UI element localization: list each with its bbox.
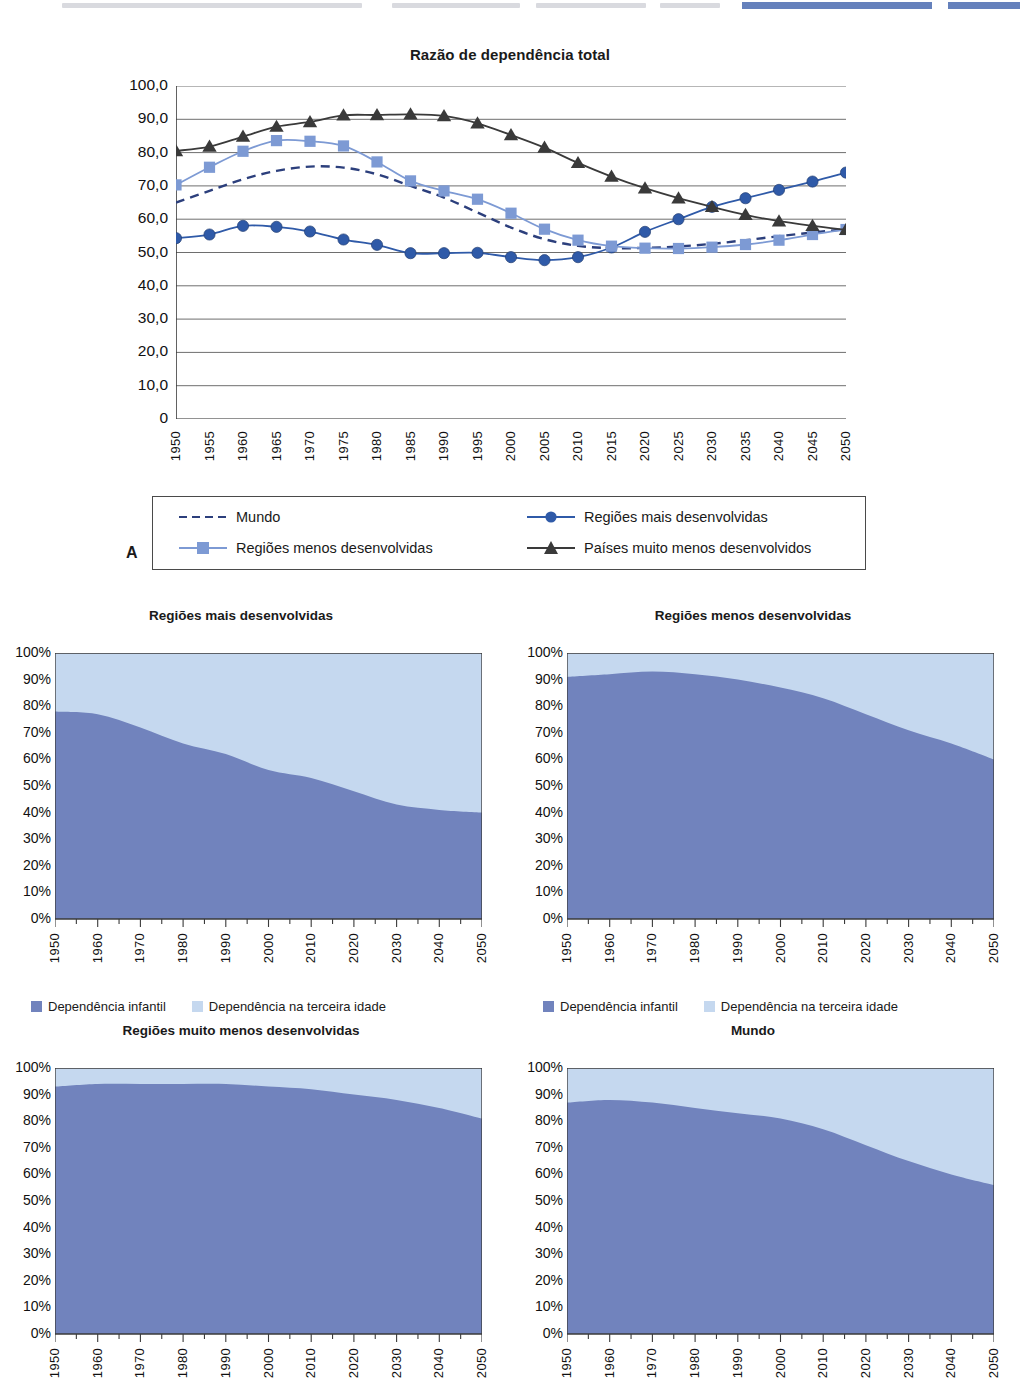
legend-label: Regiões menos desenvolvidas bbox=[236, 540, 433, 556]
area-y-tick: 0% bbox=[513, 1325, 563, 1341]
area-y-tick: 20% bbox=[1, 857, 51, 873]
area-y-tick: 70% bbox=[513, 724, 563, 740]
area-y-tick: 20% bbox=[1, 1272, 51, 1288]
area-x-tick: 2010 bbox=[303, 1348, 318, 1378]
legend-label-dependencia-infantil: Dependência infantil bbox=[560, 999, 678, 1014]
legend-swatch-dependencia-infantil bbox=[31, 1001, 42, 1012]
square-marker-icon bbox=[177, 541, 229, 555]
legend-swatch-dependencia-terceira-idade bbox=[192, 1001, 203, 1012]
legend-label: Regiões mais desenvolvidas bbox=[584, 509, 768, 525]
area-y-tick: 80% bbox=[513, 1112, 563, 1128]
main-x-tick: 2030 bbox=[704, 431, 719, 461]
area-y-tick: 80% bbox=[513, 697, 563, 713]
main-x-tick: 2050 bbox=[838, 431, 853, 461]
area-y-tick: 50% bbox=[1, 777, 51, 793]
area-x-tick: 2040 bbox=[431, 933, 446, 963]
main-y-tick: 0 bbox=[106, 409, 168, 427]
area-x-tick: 2050 bbox=[474, 1348, 489, 1378]
area-y-tick: 90% bbox=[1, 1086, 51, 1102]
area-y-tick: 100% bbox=[1, 1059, 51, 1075]
main-chart-title: Razão de dependência total bbox=[0, 46, 1020, 63]
area-x-tick: 2050 bbox=[474, 933, 489, 963]
main-x-tick: 2035 bbox=[738, 431, 753, 461]
legend-item-regioes-mais-desenvolvidas[interactable]: Regiões mais desenvolvidas bbox=[525, 502, 768, 532]
area-x-tick: 1970 bbox=[132, 1348, 147, 1378]
area-x-tick: 2020 bbox=[346, 1348, 361, 1378]
legend-label-dependencia-terceira-idade: Dependência na terceira idade bbox=[721, 999, 898, 1014]
area-y-tick: 40% bbox=[513, 804, 563, 820]
area-y-tick: 50% bbox=[1, 1192, 51, 1208]
area-x-tick: 2010 bbox=[303, 933, 318, 963]
area-x-tick: 1980 bbox=[687, 933, 702, 963]
panel-label-a: A bbox=[126, 544, 138, 562]
area-x-tick: 2050 bbox=[986, 1348, 1001, 1378]
dashed-line-icon bbox=[177, 510, 229, 524]
main-x-tick: 2020 bbox=[637, 431, 652, 461]
area-x-tick: 2000 bbox=[261, 1348, 276, 1378]
area-y-tick: 10% bbox=[1, 883, 51, 899]
area-chart-title: Regiões muito menos desenvolvidas bbox=[0, 1023, 482, 1038]
main-y-tick: 70,0 bbox=[106, 176, 168, 194]
area-x-tick: 1990 bbox=[218, 933, 233, 963]
area-y-tick: 10% bbox=[1, 1298, 51, 1314]
triangle-marker-icon bbox=[525, 541, 577, 555]
area-x-tick: 2040 bbox=[943, 1348, 958, 1378]
area-x-tick: 2000 bbox=[261, 933, 276, 963]
area-x-tick: 1970 bbox=[132, 933, 147, 963]
main-x-tick: 1970 bbox=[302, 431, 317, 461]
main-x-tick: 2025 bbox=[671, 431, 686, 461]
main-x-tick: 1955 bbox=[202, 431, 217, 461]
legend-label: Mundo bbox=[236, 509, 280, 525]
area-x-tick: 2040 bbox=[943, 933, 958, 963]
circle-marker-icon bbox=[525, 510, 577, 524]
area-x-tick: 2040 bbox=[431, 1348, 446, 1378]
area-y-tick: 10% bbox=[513, 1298, 563, 1314]
area-x-tick: 2020 bbox=[858, 933, 873, 963]
legend-label-dependencia-terceira-idade: Dependência na terceira idade bbox=[209, 999, 386, 1014]
area-x-tick: 1950 bbox=[559, 933, 574, 963]
area-y-tick: 80% bbox=[1, 697, 51, 713]
main-x-tick: 2000 bbox=[503, 431, 518, 461]
area-chart-legend: Dependência infantilDependência na terce… bbox=[543, 999, 898, 1014]
main-x-tick: 2005 bbox=[537, 431, 552, 461]
area-y-tick: 100% bbox=[513, 1059, 563, 1075]
area-y-tick: 30% bbox=[1, 830, 51, 846]
area-y-tick: 60% bbox=[513, 1165, 563, 1181]
area-y-tick: 30% bbox=[513, 1245, 563, 1261]
area-x-tick: 1970 bbox=[644, 1348, 659, 1378]
main-y-tick: 80,0 bbox=[106, 143, 168, 161]
area-x-tick: 1980 bbox=[687, 1348, 702, 1378]
area-x-tick: 1980 bbox=[175, 1348, 190, 1378]
legend-item-paises-muito-menos-desenvolvidos[interactable]: Países muito menos desenvolvidos bbox=[525, 533, 811, 563]
area-x-tick: 2000 bbox=[773, 1348, 788, 1378]
area-x-tick: 2020 bbox=[858, 1348, 873, 1378]
main-x-tick: 1990 bbox=[436, 431, 451, 461]
area-y-tick: 30% bbox=[513, 830, 563, 846]
area-y-tick: 70% bbox=[513, 1139, 563, 1155]
area-y-tick: 100% bbox=[513, 644, 563, 660]
area-x-tick: 2030 bbox=[901, 1348, 916, 1378]
main-x-tick: 1975 bbox=[336, 431, 351, 461]
area-y-tick: 0% bbox=[1, 910, 51, 926]
area-y-tick: 70% bbox=[1, 1139, 51, 1155]
legend-item-regioes-menos-desenvolvidas[interactable]: Regiões menos desenvolvidas bbox=[177, 533, 433, 563]
area-x-tick: 1960 bbox=[90, 1348, 105, 1378]
main-x-tick: 2015 bbox=[604, 431, 619, 461]
area-chart-regioes-muito-menos-desenvolvidas: Regiões muito menos desenvolvidas100%90%… bbox=[0, 1023, 500, 1395]
area-x-tick: 2030 bbox=[389, 933, 404, 963]
main-x-tick: 1950 bbox=[168, 431, 183, 461]
main-plot-area bbox=[176, 86, 846, 419]
legend-item-mundo[interactable]: Mundo bbox=[177, 502, 280, 532]
main-y-tick: 20,0 bbox=[106, 342, 168, 360]
main-x-tick: 1960 bbox=[235, 431, 250, 461]
area-x-tick: 2030 bbox=[901, 933, 916, 963]
area-y-tick: 0% bbox=[513, 910, 563, 926]
legend-label: Países muito menos desenvolvidos bbox=[584, 540, 811, 556]
area-x-tick: 1990 bbox=[730, 1348, 745, 1378]
area-x-tick: 1960 bbox=[602, 1348, 617, 1378]
area-y-tick: 0% bbox=[1, 1325, 51, 1341]
area-y-tick: 50% bbox=[513, 1192, 563, 1208]
main-x-tick: 2010 bbox=[570, 431, 585, 461]
area-plot-area bbox=[567, 1068, 994, 1343]
area-x-tick: 2030 bbox=[389, 1348, 404, 1378]
